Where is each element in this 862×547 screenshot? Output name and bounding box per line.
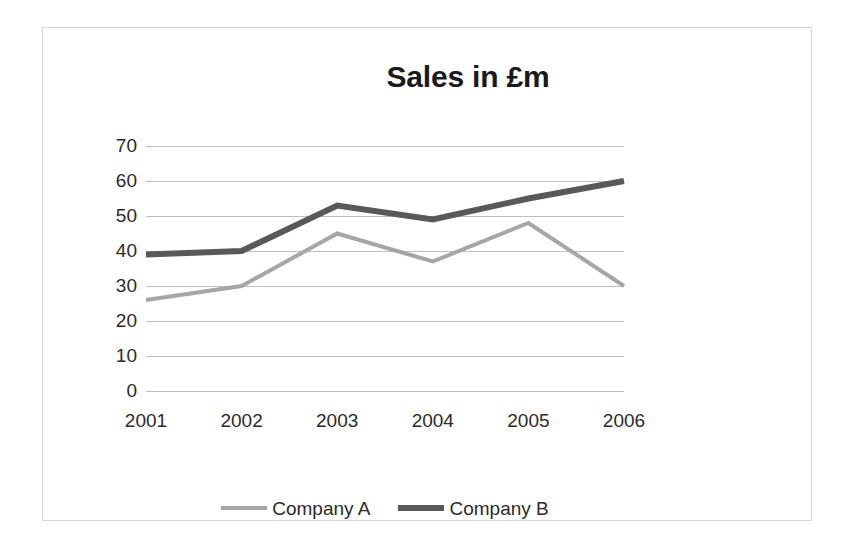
x-axis-tick-label: 2005 xyxy=(483,411,573,430)
legend-label: Company A xyxy=(272,499,370,518)
y-axis-tick-label: 0 xyxy=(91,381,137,400)
x-axis-tick-label: 2001 xyxy=(101,411,191,430)
chart-frame: Sales in £m 706050403020100 200120022003… xyxy=(42,27,812,521)
chart-screenshot: Sales in £m 706050403020100 200120022003… xyxy=(0,0,862,547)
y-axis-tick-label: 40 xyxy=(91,241,137,260)
y-axis-tick-label: 70 xyxy=(91,136,137,155)
legend-swatch-icon xyxy=(398,505,444,511)
y-axis-tick-label: 50 xyxy=(91,206,137,225)
chart-title: Sales in £m xyxy=(163,62,773,92)
x-axis-tick-label: 2002 xyxy=(197,411,287,430)
y-axis-tick-labels: 706050403020100 xyxy=(85,146,137,391)
series-line-company-b xyxy=(146,181,624,255)
x-axis-tick-label: 2004 xyxy=(388,411,478,430)
y-axis-tick-label: 30 xyxy=(91,276,137,295)
legend-swatch-icon xyxy=(221,506,267,510)
y-axis-tick-label: 60 xyxy=(91,171,137,190)
legend-entry-company-a[interactable]: Company A xyxy=(221,499,370,518)
series-lines xyxy=(146,146,624,391)
chart-legend: Company ACompany B xyxy=(146,493,624,523)
x-axis-tick-labels: 200120022003200420052006 xyxy=(146,411,624,439)
plot-area xyxy=(146,146,624,391)
y-axis-tick-label: 20 xyxy=(91,311,137,330)
legend-entry-company-b[interactable]: Company B xyxy=(398,499,548,518)
x-axis-tick-label: 2006 xyxy=(579,411,669,430)
legend-label: Company B xyxy=(449,499,548,518)
series-line-company-a xyxy=(146,223,624,300)
y-axis-tick-label: 10 xyxy=(91,346,137,365)
gridline xyxy=(146,391,624,392)
x-axis-tick-label: 2003 xyxy=(292,411,382,430)
